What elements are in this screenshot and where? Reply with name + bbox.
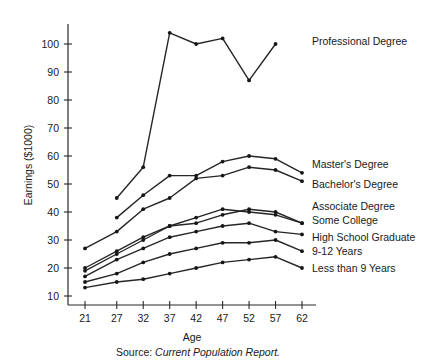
y-tick-label: 60 — [47, 150, 59, 162]
series-marker — [247, 221, 251, 225]
y-tick-label: 20 — [47, 262, 59, 274]
x-tick-label: 21 — [79, 312, 91, 324]
series-marker — [83, 275, 87, 279]
series-marker — [194, 216, 198, 220]
x-tick-label: 32 — [137, 312, 149, 324]
series-label-2: Bachelor's Degree — [312, 178, 398, 190]
series-marker — [83, 286, 87, 290]
series-marker — [247, 241, 251, 245]
chart-series-group — [83, 31, 304, 290]
series-marker — [247, 154, 251, 158]
series-marker — [247, 258, 251, 262]
series-marker — [194, 221, 198, 225]
x-tick-label: 52 — [243, 312, 255, 324]
series-label-4: Some College — [312, 214, 378, 226]
series-marker — [168, 252, 172, 256]
series-marker — [168, 196, 172, 200]
y-tick-label: 70 — [47, 122, 59, 134]
series-marker — [221, 37, 225, 41]
x-tick-label: 27 — [111, 312, 123, 324]
source-note: Source: Current Population Report. — [116, 346, 280, 358]
series-marker — [274, 230, 278, 234]
series-label-5: High School Graduate — [312, 231, 415, 243]
series-marker — [221, 207, 225, 211]
series-marker — [168, 235, 172, 239]
series-label-6: 9-12 Years — [312, 245, 362, 257]
y-tick-label: 50 — [47, 178, 59, 190]
series-label-1: Master's Degree — [312, 158, 389, 170]
y-tick-label: 80 — [47, 94, 59, 106]
series-marker — [115, 272, 119, 276]
series-marker — [141, 247, 145, 251]
chart-figure: 102030405060708090100 212732374247525762… — [0, 0, 436, 361]
y-tick-label: 100 — [41, 38, 59, 50]
series-marker — [83, 280, 87, 284]
series-marker — [274, 255, 278, 259]
y-tick-label: 90 — [47, 66, 59, 78]
source-citation: Current Population Report. — [155, 346, 280, 358]
series-marker — [274, 42, 278, 46]
series-marker — [141, 165, 145, 169]
series-marker — [221, 241, 225, 245]
series-label-0: Professional Degree — [312, 35, 407, 47]
y-axis-title: Earnings ($1000) — [22, 125, 34, 206]
series-marker — [300, 249, 304, 253]
series-marker — [221, 224, 225, 228]
series-marker — [300, 179, 304, 183]
y-tick-label: 40 — [47, 206, 59, 218]
earnings-by-education-line-chart: 102030405060708090100 212732374247525762… — [0, 0, 436, 361]
series-marker — [274, 157, 278, 161]
series-marker — [115, 230, 119, 234]
series-marker — [221, 213, 225, 217]
series-marker — [274, 238, 278, 242]
y-tick-label: 10 — [47, 290, 59, 302]
series-marker — [115, 252, 119, 256]
x-axis-title: Age — [183, 331, 202, 343]
series-marker — [168, 224, 172, 228]
series-marker — [115, 258, 119, 262]
series-marker — [141, 238, 145, 242]
series-marker — [247, 165, 251, 169]
x-tick-label: 57 — [270, 312, 282, 324]
series-marker — [300, 233, 304, 237]
series-marker — [194, 266, 198, 270]
series-marker — [221, 174, 225, 178]
series-marker — [141, 193, 145, 197]
x-tick-label: 47 — [217, 312, 229, 324]
series-marker — [221, 261, 225, 265]
series-line — [85, 167, 302, 248]
series-marker — [221, 160, 225, 164]
series-marker — [194, 42, 198, 46]
series-marker — [300, 221, 304, 225]
series-marker — [274, 210, 278, 214]
series-marker — [247, 207, 251, 211]
series-label-3: Associate Degree — [312, 200, 395, 212]
chart-series-labels: Professional DegreeMaster's DegreeBachel… — [312, 35, 415, 274]
series-marker — [194, 247, 198, 251]
series-marker — [115, 280, 119, 284]
series-marker — [83, 247, 87, 251]
series-marker — [115, 216, 119, 220]
series-marker — [168, 31, 172, 35]
series-marker — [194, 177, 198, 181]
series-marker — [274, 168, 278, 172]
series-marker — [115, 196, 119, 200]
chart-axes — [68, 24, 316, 305]
series-marker — [300, 171, 304, 175]
series-marker — [300, 266, 304, 270]
series-2 — [83, 165, 304, 250]
series-marker — [168, 272, 172, 276]
series-marker — [168, 174, 172, 178]
series-marker — [141, 261, 145, 265]
series-marker — [141, 207, 145, 211]
series-label-7: Less than 9 Years — [312, 262, 395, 274]
x-tick-label: 62 — [296, 312, 308, 324]
series-marker — [141, 277, 145, 281]
x-tick-label: 37 — [164, 312, 176, 324]
x-tick-label: 42 — [190, 312, 202, 324]
y-tick-label: 30 — [47, 234, 59, 246]
series-marker — [194, 230, 198, 234]
series-marker — [247, 79, 251, 83]
series-line — [117, 33, 276, 198]
source-prefix: Source: — [116, 346, 155, 358]
